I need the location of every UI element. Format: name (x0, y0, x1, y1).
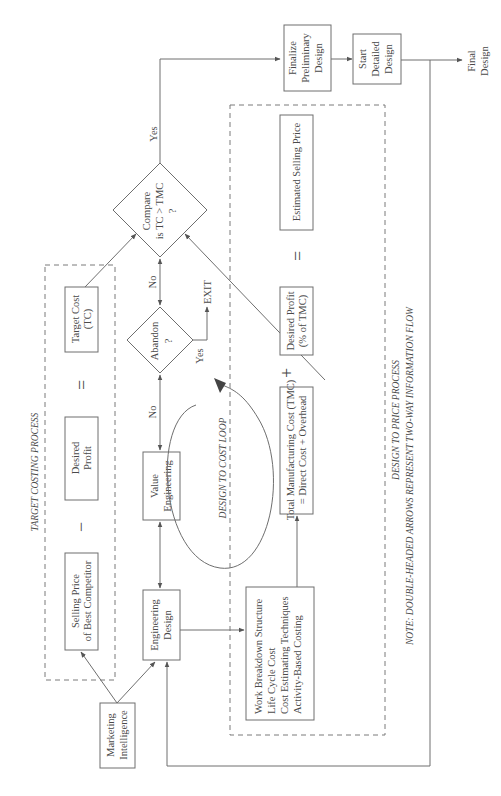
selling-price-line-1: Selling Price (70, 574, 81, 628)
label-yes-compare: Yes (148, 126, 159, 141)
start-detailed-design-box: Start Detailed Design (353, 34, 401, 84)
desired-profit-line-1: Desired (70, 441, 81, 474)
target-costing-title: TARGET COSTING PROCESS (30, 413, 40, 532)
final-design-line-2: Design (479, 45, 490, 75)
target-costing-group: TARGET COSTING PROCESS Selling Price of … (30, 265, 115, 680)
design-to-price-title: DESIGN TO PRICE PROCESS (391, 360, 401, 481)
compare-line-1: Compare (141, 191, 152, 230)
estimated-selling-price-label: Estimated Selling Price (291, 122, 302, 221)
start-line-2: Detailed (370, 40, 381, 76)
desired-profit-line-2: Profit (82, 446, 93, 470)
desired-profit-tmc-line-2: (% of TMC) (297, 294, 309, 347)
arrow-mi-to-engineering-design (117, 662, 155, 703)
finalize-line-3: Design (313, 42, 324, 72)
desired-profit-tmc-box: Desired Profit (% of TMC) (280, 287, 313, 355)
design-to-price-group: DESIGN TO PRICE PROCESS Work Breakdown S… (230, 105, 401, 735)
desired-profit-box: Desired Profit (65, 417, 98, 500)
tmc-box: Total Manufacturing Cost (TMC) = Direct … (280, 379, 313, 520)
value-engineering-box: Value Engineering (143, 452, 180, 520)
cost-tools-box: Work Breakdown Structure Life Cycle Cost… (246, 587, 314, 720)
minus-operator: − (71, 522, 91, 532)
design-to-cost-diagram: TARGET COSTING PROCESS Selling Price of … (0, 0, 501, 796)
compare-line-2: is TC > TMC (154, 183, 165, 240)
desired-profit-tmc-line-1: Desired Profit (285, 291, 296, 350)
design-to-cost-loop: DESIGN TO COST LOOP (167, 378, 273, 568)
exit-label: EXIT (202, 279, 213, 303)
plus-operator: + (277, 368, 297, 378)
engineering-design-box: Engineering Design (143, 590, 180, 660)
finalize-preliminary-design-box: Finalize Preliminary Design (284, 25, 331, 91)
tmc-line-2: = Direct Cost + Overhead (297, 395, 308, 504)
loop-arrowhead-icon (214, 378, 226, 393)
estimated-selling-price-box: Estimated Selling Price (280, 115, 313, 230)
marketing-intelligence-box: Marketing Intelligence (100, 703, 135, 768)
tmc-line-1: Total Manufacturing Cost (TMC) (285, 379, 297, 520)
label-no-compare: No (147, 276, 158, 289)
compare-line-3: ? (167, 208, 178, 213)
abandon-line-1: Abandon (149, 321, 160, 360)
finalize-line-2: Preliminary (300, 32, 311, 82)
marketing-intelligence-line-2: Intelligence (118, 710, 129, 760)
target-cost-box: Target Cost (TC) (65, 287, 98, 352)
tool-life-cycle-cost: Life Cycle Cost (266, 647, 277, 714)
label-yes-abandon: Yes (194, 348, 205, 363)
label-no-abandon: No (147, 406, 158, 419)
abandon-line-2: ? (163, 338, 174, 343)
arrow-mi-to-selling-price (81, 652, 117, 703)
marketing-intelligence-line-1: Marketing (105, 712, 116, 756)
selling-price-box: Selling Price of Best Competitor (65, 553, 98, 650)
engineering-design-line-2: Design (162, 609, 173, 639)
note-two-way-arrows: NOTE: DOUBLE-HEADED ARROWS REPRESENT TWO… (405, 306, 415, 646)
equals-operator-price: = (288, 251, 308, 261)
abandon-decision: Abandon ? (127, 307, 193, 373)
arrow-abandon-to-exit (193, 307, 207, 340)
target-cost-line-1: Target Cost (70, 295, 81, 343)
design-to-cost-loop-label: DESIGN TO COST LOOP (218, 417, 228, 519)
start-line-3: Design (383, 43, 394, 73)
value-engineering-line-1: Value (149, 474, 160, 498)
engineering-design-line-1: Engineering (149, 599, 160, 651)
arrow-compare-to-finalize (160, 59, 280, 163)
tool-activity-based-costing: Activity-Based Costing (292, 614, 303, 714)
finalize-line-1: Finalize (287, 41, 298, 75)
final-design-line-1: Final (466, 50, 477, 72)
tool-cost-estimating-techniques: Cost Estimating Techniques (279, 597, 290, 714)
target-cost-line-2: (TC) (82, 308, 94, 329)
equals-operator: = (72, 380, 92, 390)
start-line-1: Start (357, 49, 368, 69)
selling-price-line-2: of Best Competitor (82, 560, 93, 641)
tool-work-breakdown-structure: Work Breakdown Structure (253, 598, 264, 714)
arrow-target-cost-to-compare (85, 234, 136, 287)
